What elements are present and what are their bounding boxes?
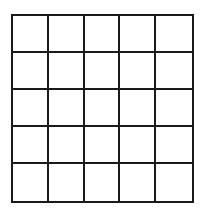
grid-cell: [49, 90, 85, 127]
grid-cell: [156, 16, 192, 53]
grid-cell: [13, 90, 49, 127]
grid-cell: [13, 127, 49, 164]
grid-cell: [85, 90, 121, 127]
grid-cell: [85, 16, 121, 53]
grid-cell: [120, 164, 156, 201]
grid-cell: [49, 53, 85, 90]
grid-cell: [156, 127, 192, 164]
grid-cell: [120, 53, 156, 90]
grid-cell: [85, 53, 121, 90]
grid-cell: [49, 127, 85, 164]
grid-cell: [156, 164, 192, 201]
grid-cell: [156, 53, 192, 90]
grid-cell: [156, 90, 192, 127]
grid-cell: [85, 164, 121, 201]
grid-cell: [13, 53, 49, 90]
grid-cell: [49, 164, 85, 201]
grid-cell: [13, 16, 49, 53]
grid-cell: [120, 90, 156, 127]
grid-cell: [85, 127, 121, 164]
grid-cell: [120, 16, 156, 53]
grid-cell: [120, 127, 156, 164]
grid-cell: [13, 164, 49, 201]
grid-5x5: [11, 14, 194, 203]
grid-cell: [49, 16, 85, 53]
